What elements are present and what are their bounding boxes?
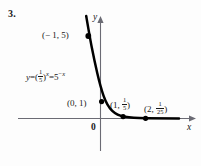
point-label-2-fraction: 125	[156, 101, 164, 115]
origin-label: 0	[91, 122, 96, 132]
x-axis-arrowhead	[189, 115, 196, 121]
point-label-2-one-twentyfifth: (2, 125)	[144, 101, 167, 115]
point-label-2-denominator: 25	[156, 108, 164, 116]
point-label-neg1-5-text: (− 1, 5)	[42, 30, 69, 40]
point-label-1-numerator: 1	[122, 97, 126, 104]
y-axis-label: y	[93, 12, 97, 22]
point-marker-neg1-5	[85, 33, 91, 39]
point-marker-0-1	[99, 99, 104, 104]
point-label-1-suffix: )	[127, 100, 130, 110]
figure-container: 3. y x 0 (− 1, 5) y=(15)x=5−x (0, 1)	[0, 0, 201, 166]
point-label-0-1: (0, 1)	[67, 99, 87, 108]
point-label-2-numerator: 1	[156, 101, 164, 108]
point-label-neg1-5: (− 1, 5)	[42, 31, 69, 40]
point-label-0-1-text: (0, 1)	[67, 98, 87, 108]
point-label-1-denominator: 5	[122, 104, 126, 112]
x-axis-label: x	[187, 122, 191, 132]
point-label-2-prefix: (2,	[144, 104, 156, 114]
point-marker-1-one-fifth	[121, 114, 126, 119]
equation-label: y=(15)x=5−x	[26, 69, 65, 83]
point-label-1-one-fifth: (1, 15)	[110, 97, 130, 111]
point-label-2-suffix: )	[164, 104, 167, 114]
point-label-1-fraction: 15	[122, 97, 126, 111]
y-axis-arrowhead	[97, 16, 103, 23]
equation-alt-exponent: x	[62, 70, 65, 77]
point-marker-2-one-twentyfifth	[143, 116, 148, 121]
point-label-1-prefix: (1,	[110, 100, 122, 110]
